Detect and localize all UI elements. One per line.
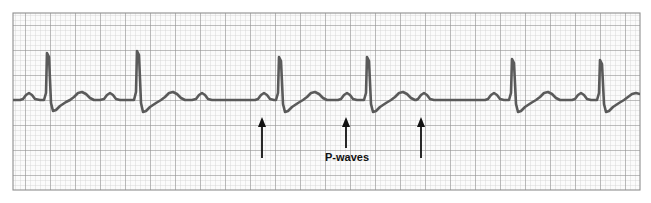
ecg-grid bbox=[13, 13, 640, 190]
p-waves-label: P-waves bbox=[325, 151, 369, 163]
ecg-figure: P-waves bbox=[0, 0, 651, 203]
ecg-strip-svg: P-waves bbox=[0, 0, 651, 203]
